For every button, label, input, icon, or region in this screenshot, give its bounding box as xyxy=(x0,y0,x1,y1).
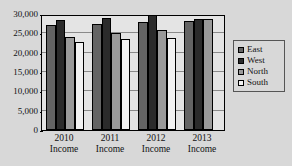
x-axis-category-line: Income xyxy=(41,144,87,155)
x-axis-category-label: 2012Income xyxy=(133,133,179,155)
bar-east-3 xyxy=(184,21,194,130)
bars-layer xyxy=(42,16,224,130)
x-axis-category-line: 2010 xyxy=(41,133,87,144)
y-axis-tick-label: 20,000 xyxy=(13,49,38,58)
bar-north-0 xyxy=(65,37,75,130)
bar-north-2 xyxy=(157,30,167,130)
bar-east-0 xyxy=(46,25,56,130)
chart-legend: EastWestNorthSouth xyxy=(233,40,285,92)
x-axis-category-line: 2013 xyxy=(179,133,225,144)
legend-swatch-icon xyxy=(238,80,244,86)
bar-east-2 xyxy=(138,22,148,130)
bar-west-3 xyxy=(194,19,204,130)
legend-item-south[interactable]: South xyxy=(238,77,281,88)
plot-area xyxy=(41,15,225,131)
legend-item-east[interactable]: East xyxy=(238,44,281,55)
legend-swatch-icon xyxy=(238,58,244,64)
bar-south-1 xyxy=(121,39,131,130)
bar-group xyxy=(134,16,180,130)
bar-group xyxy=(180,16,226,130)
y-axis-tick-mark xyxy=(40,131,43,132)
legend-item-north[interactable]: North xyxy=(238,66,281,77)
y-axis-tick-label: 15,000 xyxy=(13,68,38,77)
y-axis-tick-label: 0 xyxy=(34,126,39,135)
bar-south-0 xyxy=(75,42,85,130)
legend-item-label: South xyxy=(247,78,268,87)
y-axis-tick-label: 10,000 xyxy=(13,87,38,96)
x-axis-category-line: Income xyxy=(133,144,179,155)
y-axis: 05,00010,00015,00020,00025,00030,000 xyxy=(2,0,38,166)
x-axis-category-line: 2012 xyxy=(133,133,179,144)
bar-chart: 05,00010,00015,00020,00025,00030,000 201… xyxy=(0,0,292,166)
x-axis-category-line: Income xyxy=(179,144,225,155)
bar-north-1 xyxy=(111,33,121,130)
bar-south-2 xyxy=(167,38,177,130)
legend-swatch-icon xyxy=(238,69,244,75)
x-axis-category-label: 2010Income xyxy=(41,133,87,155)
bar-group xyxy=(42,16,88,130)
legend-swatch-icon xyxy=(238,47,244,53)
x-axis: 2010Income2011Income2012Income2013Income xyxy=(41,133,225,166)
x-axis-category-label: 2011Income xyxy=(87,133,133,155)
x-axis-category-line: 2011 xyxy=(87,133,133,144)
legend-item-label: East xyxy=(247,45,263,54)
bar-west-1 xyxy=(102,18,112,130)
bar-north-3 xyxy=(203,19,213,130)
x-axis-category-line: Income xyxy=(87,144,133,155)
bar-east-1 xyxy=(92,24,102,130)
legend-item-label: West xyxy=(247,56,265,65)
x-axis-category-label: 2013Income xyxy=(179,133,225,155)
legend-item-label: North xyxy=(247,67,268,76)
bar-west-0 xyxy=(56,20,66,130)
bar-group xyxy=(88,16,134,130)
y-axis-tick-label: 25,000 xyxy=(13,29,38,38)
legend-item-west[interactable]: West xyxy=(238,55,281,66)
y-axis-tick-label: 30,000 xyxy=(13,10,38,19)
y-axis-tick-label: 5,000 xyxy=(18,107,38,116)
bar-west-2 xyxy=(148,15,158,130)
